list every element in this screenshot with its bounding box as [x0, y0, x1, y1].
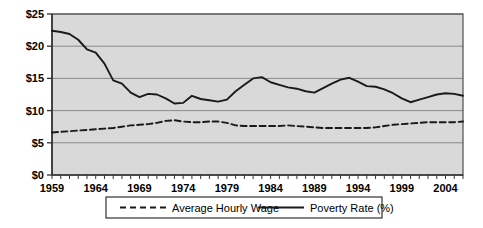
y-tick-label: $5 — [32, 137, 44, 149]
y-tick-label: $20 — [26, 40, 44, 52]
chart-container: $0$5$10$15$20$25195919641969197419791984… — [0, 0, 483, 228]
chart-legend: Average Hourly WagePoverty Rate (%) — [106, 197, 394, 218]
y-tick-label: $25 — [26, 8, 44, 20]
line-chart: $0$5$10$15$20$25195919641969197419791984… — [0, 0, 483, 228]
y-tick-label: $15 — [26, 72, 44, 84]
x-tick-label: 1984 — [258, 182, 283, 194]
x-tick-label: 1989 — [302, 182, 326, 194]
plot-background — [52, 14, 463, 175]
x-axis: 1959196419691974197919841989199419992004 — [40, 175, 463, 194]
y-tick-label: $0 — [32, 169, 44, 181]
x-tick-label: 1999 — [390, 182, 414, 194]
legend-label: Poverty Rate (%) — [310, 202, 394, 214]
x-tick-label: 1974 — [171, 182, 196, 194]
x-tick-label: 1994 — [346, 182, 371, 194]
x-tick-label: 2004 — [433, 182, 458, 194]
x-tick-label: 1959 — [40, 182, 64, 194]
y-tick-label: $10 — [26, 105, 44, 117]
x-tick-label: 1964 — [83, 182, 108, 194]
x-tick-label: 1979 — [215, 182, 239, 194]
y-axis: $0$5$10$15$20$25 — [26, 8, 52, 181]
x-tick-label: 1969 — [127, 182, 151, 194]
